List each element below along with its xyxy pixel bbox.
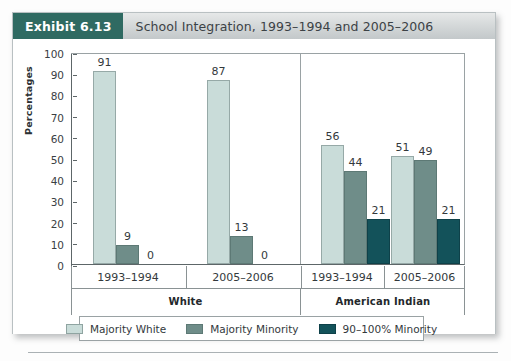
bar-value-label: 44: [349, 156, 363, 169]
bar-item[interactable]: 56: [321, 54, 344, 264]
y-axis-tick-label: 50: [51, 154, 71, 166]
chart-area: Percentages 1009080706050403020100 91908…: [13, 39, 495, 334]
y-axis-tick-label: 20: [51, 218, 71, 230]
x-axis-period-label: 1993–1994: [71, 266, 185, 289]
chart-legend: Majority White Majority Minority 90–100%…: [79, 316, 424, 341]
bar[interactable]: [414, 160, 437, 264]
x-axis-separator: [464, 266, 465, 289]
bar-value-label: 9: [124, 230, 131, 243]
exhibit-badge: Exhibit 6.13: [13, 13, 123, 39]
exhibit-header: Exhibit 6.13 School Integration, 1993–19…: [13, 13, 495, 39]
y-axis-tick-label: 80: [51, 90, 71, 102]
x-axis-separator: [71, 266, 72, 289]
bar-value-label: 0: [147, 249, 154, 262]
bar-value-label: 56: [326, 130, 340, 143]
legend-item-90-100-minority: 90–100% Minority: [319, 323, 438, 335]
x-axis-separator: [384, 266, 385, 289]
x-axis-group-label: White: [71, 289, 300, 313]
y-axis-tick-label: 60: [51, 133, 71, 145]
x-axis-separator: [186, 266, 187, 289]
bar[interactable]: [93, 71, 116, 264]
bar[interactable]: [230, 236, 253, 264]
bar-item[interactable]: 0: [253, 54, 276, 264]
legend-swatch-icon: [186, 324, 203, 334]
plot-frame: 1009080706050403020100 91908713056442151…: [71, 53, 465, 265]
bar-value-label: 91: [98, 56, 112, 69]
bar-item[interactable]: 51: [391, 54, 414, 264]
bar-item[interactable]: 49: [414, 54, 437, 264]
y-axis-tick-label: 70: [51, 112, 71, 124]
x-axis-group-separator: [300, 289, 301, 315]
y-axis-tick-label: 40: [51, 175, 71, 187]
bar-item[interactable]: 87: [207, 54, 230, 264]
bar[interactable]: [321, 145, 344, 264]
x-axis-group-row: WhiteAmerican Indian: [71, 289, 465, 315]
bar-item[interactable]: 44: [344, 54, 367, 264]
bar[interactable]: [391, 156, 414, 264]
bar-value-label: 49: [419, 145, 433, 158]
x-axis-period-label: 1993–1994: [301, 266, 383, 289]
exhibit-title: School Integration, 1993–1994 and 2005–2…: [123, 13, 434, 39]
y-axis-tick-label: 90: [51, 69, 71, 81]
bar-cluster: 87130: [207, 54, 276, 264]
y-axis-title: Percentages: [23, 66, 34, 135]
bar[interactable]: [116, 245, 139, 264]
bar[interactable]: [367, 219, 390, 264]
x-axis-group-separator: [71, 289, 72, 315]
legend-label: Majority White: [90, 323, 166, 335]
legend-label: Majority Minority: [210, 323, 298, 335]
y-axis-tick-label: 10: [51, 239, 71, 251]
y-axis-tick-label: 100: [44, 48, 71, 60]
bar-value-label: 21: [372, 204, 386, 217]
bar-item[interactable]: 21: [437, 54, 460, 264]
x-axis-period-label: 2005–2006: [186, 266, 300, 289]
legend-item-majority-minority: Majority Minority: [186, 323, 298, 335]
bar-cluster: 9190: [93, 54, 162, 264]
bar-item[interactable]: 21: [367, 54, 390, 264]
page-rule: [28, 352, 498, 353]
x-axis-group-separator: [464, 289, 465, 315]
bar-value-label: 13: [235, 221, 249, 234]
exhibit-box: Exhibit 6.13 School Integration, 1993–19…: [12, 12, 496, 334]
x-axis-period-label: 2005–2006: [384, 266, 465, 289]
y-axis-tick-label: 30: [51, 196, 71, 208]
x-axis-separator: [301, 266, 302, 289]
bar-cluster: 564421: [321, 54, 390, 264]
x-axis-group-label: American Indian: [301, 289, 465, 313]
bar-value-label: 0: [261, 249, 268, 262]
legend-label: 90–100% Minority: [343, 323, 438, 335]
bar-value-label: 21: [442, 204, 456, 217]
group-divider: [300, 54, 301, 264]
legend-swatch-icon: [319, 324, 336, 334]
legend-item-majority-white: Majority White: [66, 323, 166, 335]
bar[interactable]: [207, 80, 230, 264]
bar-value-label: 51: [396, 141, 410, 154]
bar-item[interactable]: 0: [139, 54, 162, 264]
bar[interactable]: [344, 171, 367, 264]
bar-item[interactable]: 9: [116, 54, 139, 264]
legend-swatch-icon: [66, 324, 83, 334]
bar-value-label: 87: [212, 65, 226, 78]
y-axis-tick-label: 0: [57, 260, 71, 272]
bar-series-container: 919087130564421514921: [71, 54, 464, 264]
bar-cluster: 514921: [391, 54, 460, 264]
bar-item[interactable]: 13: [230, 54, 253, 264]
x-axis-period-row: 1993–19942005–20061993–19942005–2006: [71, 266, 465, 289]
bar-item[interactable]: 91: [93, 54, 116, 264]
scanned-page: Exhibit 6.13 School Integration, 1993–19…: [0, 0, 511, 361]
bar[interactable]: [437, 219, 460, 264]
